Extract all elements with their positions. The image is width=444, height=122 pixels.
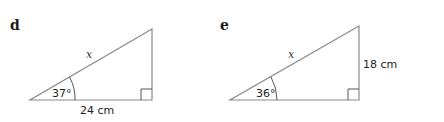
angle-label: 36° — [256, 87, 276, 100]
right-angle-marker — [141, 89, 152, 100]
base-label: 24 cm — [80, 104, 114, 117]
hypotenuse-label: x — [288, 48, 295, 61]
angle-label: 37° — [52, 87, 72, 100]
triangle-d: d x 37° 24 cm — [10, 17, 152, 117]
triangle-outline — [30, 29, 152, 100]
figure-label-e: e — [220, 17, 229, 33]
triangle-outline — [230, 26, 359, 100]
right-angle-marker — [348, 89, 359, 100]
hypotenuse-label: x — [86, 48, 93, 61]
diagram-canvas: d x 37° 24 cm e x 36° 18 cm — [0, 0, 444, 122]
triangle-e: e x 36° 18 cm — [220, 17, 397, 100]
side-label: 18 cm — [363, 58, 397, 71]
figure-label-d: d — [10, 17, 20, 33]
